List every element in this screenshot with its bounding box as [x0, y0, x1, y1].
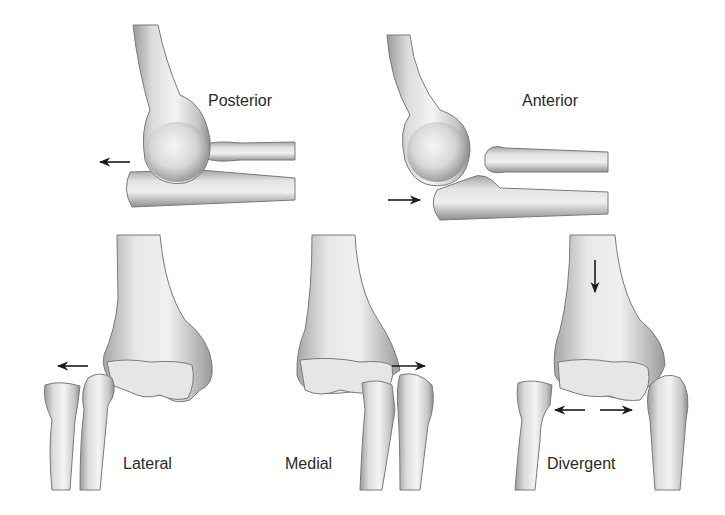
posterior-panel	[100, 25, 295, 207]
label-posterior: Posterior	[208, 92, 272, 110]
label-divergent: Divergent	[547, 455, 615, 473]
radius-bone	[397, 374, 433, 490]
anterior-panel	[387, 35, 608, 220]
medial-panel	[297, 235, 433, 490]
trochlea	[558, 360, 649, 401]
ulna-bone	[515, 381, 552, 490]
label-lateral: Lateral	[123, 455, 172, 473]
elbow-dislocation-diagram	[0, 0, 725, 515]
ulna-bone	[126, 170, 295, 207]
divergent-panel	[515, 235, 688, 490]
radius-bone	[648, 375, 689, 490]
label-medial: Medial	[285, 455, 332, 473]
ulna-bone	[433, 176, 608, 220]
ulna-bone	[360, 381, 395, 490]
radius-bone	[80, 374, 114, 490]
radius-bone	[485, 147, 608, 173]
radius-bone	[205, 142, 295, 161]
label-anterior: Anterior	[522, 92, 578, 110]
trochlea	[107, 360, 193, 399]
ulna-bone	[44, 383, 80, 490]
lateral-panel	[44, 235, 212, 490]
